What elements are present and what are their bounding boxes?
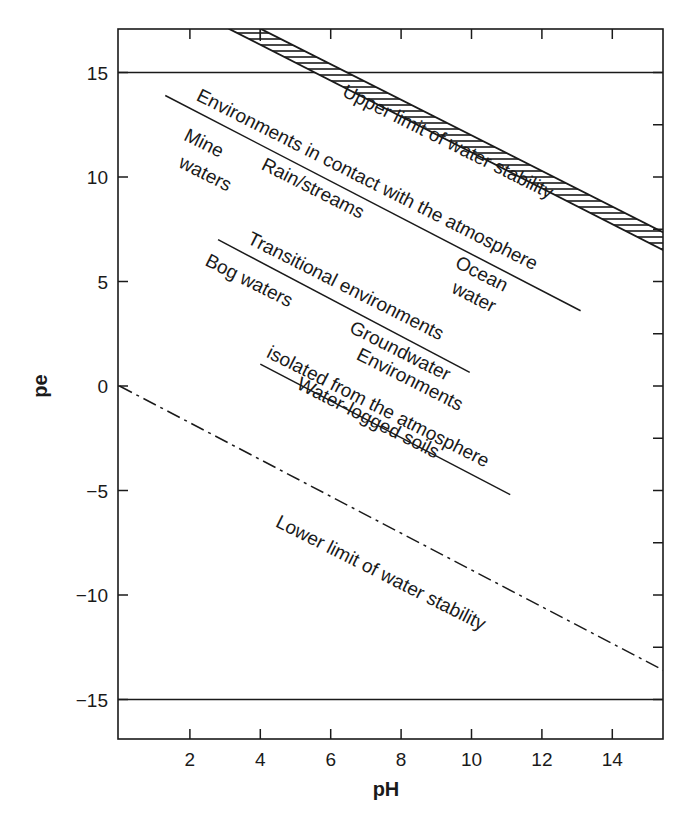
y-tick-label: 15 bbox=[87, 63, 108, 84]
eh-ph-diagram: Upper limit of water stabilityEnvironmen… bbox=[0, 0, 690, 826]
x-tick-label: 14 bbox=[602, 749, 624, 770]
y-tick-label: −5 bbox=[86, 481, 108, 502]
annotation-label: waters bbox=[175, 151, 235, 195]
x-axis-title: pH bbox=[373, 778, 400, 800]
x-tick-label: 10 bbox=[461, 749, 482, 770]
x-tick-label: 4 bbox=[255, 749, 266, 770]
y-axis-ticks: 151050−5−10−15 bbox=[76, 63, 663, 711]
y-axis-title: pe bbox=[29, 374, 51, 397]
x-tick-label: 6 bbox=[325, 749, 336, 770]
y-tick-label: 0 bbox=[97, 376, 108, 397]
x-tick-label: 2 bbox=[185, 749, 196, 770]
x-tick-label: 12 bbox=[531, 749, 552, 770]
annotations: Upper limit of water stabilityEnvironmen… bbox=[175, 80, 557, 634]
series-line-2 bbox=[218, 240, 470, 373]
annotation-label: Lower limit of water stability bbox=[273, 511, 490, 635]
y-tick-label: −10 bbox=[76, 585, 108, 606]
y-tick-label: 5 bbox=[97, 272, 108, 293]
y-tick-label: −15 bbox=[76, 690, 108, 711]
y-tick-label: 10 bbox=[87, 167, 108, 188]
x-tick-label: 8 bbox=[396, 749, 407, 770]
